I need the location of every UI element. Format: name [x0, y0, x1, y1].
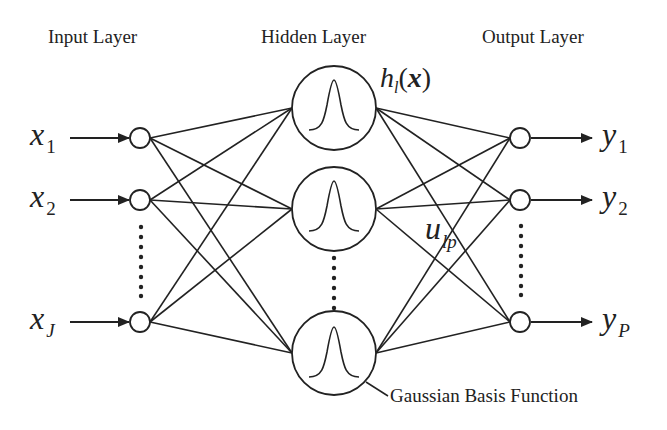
output-arrows — [531, 138, 592, 322]
hidden-nodes — [292, 66, 376, 395]
input-label-J: xJ — [30, 302, 55, 340]
hidden-node-1 — [292, 66, 376, 150]
output-label-2: y2 — [602, 180, 628, 218]
input-label-2: x2 — [30, 180, 56, 218]
network-graph — [0, 0, 667, 430]
output-node-1 — [510, 128, 530, 148]
input-node-J — [130, 312, 150, 332]
rbf-network-diagram: Input Layer Hidden Layer Output Layer x1… — [0, 0, 667, 430]
gaussian-basis-annotation: Gaussian Basis Function — [390, 385, 578, 407]
input-node-2 — [130, 190, 150, 210]
hidden-node-2 — [292, 167, 376, 251]
input-nodes — [130, 128, 150, 332]
layer-title-input: Input Layer — [48, 26, 137, 48]
connections-input-hidden — [150, 108, 292, 353]
layer-title-output: Output Layer — [482, 26, 584, 48]
input-label-1: x1 — [30, 118, 56, 156]
hidden-function-label: hl(x) — [380, 64, 431, 96]
output-nodes — [510, 128, 530, 332]
output-label-P: yP — [602, 302, 630, 340]
input-arrows — [70, 138, 129, 322]
output-node-2 — [510, 190, 530, 210]
input-node-1 — [130, 128, 150, 148]
layer-title-hidden: Hidden Layer — [261, 26, 366, 48]
output-label-1: y1 — [602, 118, 628, 156]
annotation-leader-line — [366, 382, 388, 396]
hidden-node-L — [292, 311, 376, 395]
output-node-P — [510, 312, 530, 332]
weight-label: ulp — [425, 212, 457, 251]
